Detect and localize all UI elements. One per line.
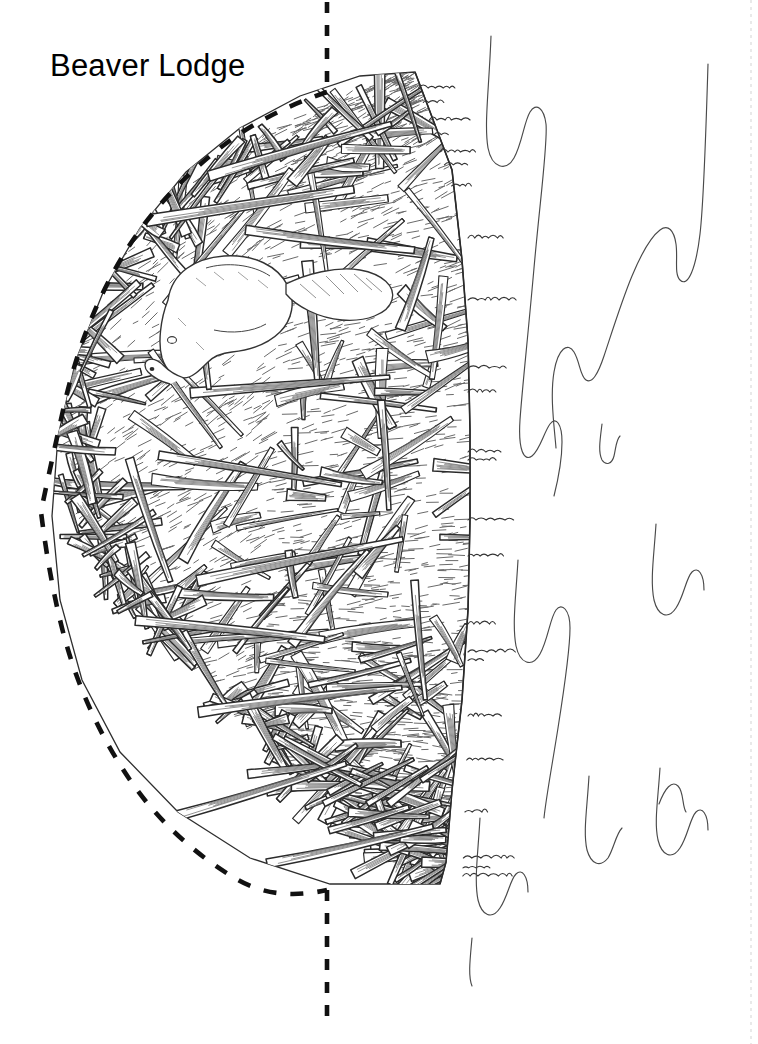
illustration-page: Beaver Lodge [0, 0, 758, 1044]
beaver-nose [150, 367, 155, 371]
lodge-mound [18, 59, 516, 910]
page-title: Beaver Lodge [50, 48, 245, 84]
water-ripples [470, 36, 708, 986]
beaver-lodge-illustration [0, 0, 758, 1044]
